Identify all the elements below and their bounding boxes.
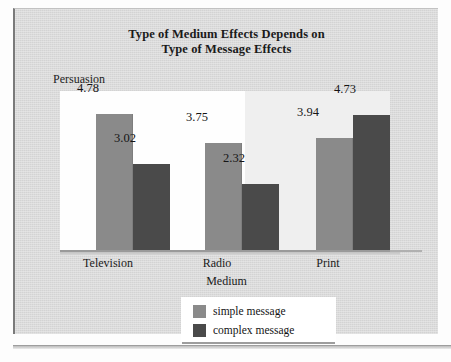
chart-title-line-2: Type of Message Effects	[15, 42, 438, 57]
legend-label-simple-message: simple message	[213, 305, 286, 317]
bar-television-complex	[133, 164, 170, 250]
value-label-television-simple: 4.78	[63, 81, 113, 96]
chart-title-line-1: Type of Medium Effects Depends on	[15, 27, 438, 42]
legend-item-simple-message: simple message	[193, 302, 336, 320]
bar-print-simple	[316, 138, 353, 250]
legend-label-complex-message: complex message	[213, 324, 294, 336]
x-axis-label: Medium	[15, 274, 438, 289]
value-label-print-complex: 4.73	[320, 82, 370, 97]
legend-swatch-complex-message	[193, 324, 206, 337]
value-label-print-simple: 3.94	[283, 105, 333, 120]
legend-item-complex-message: complex message	[193, 321, 336, 339]
category-label-radio: Radio	[172, 256, 262, 271]
value-label-radio-complex: 2.32	[209, 151, 259, 166]
plot-area	[60, 91, 390, 250]
x-axis-baseline	[60, 250, 400, 255]
bar-print-complex	[353, 115, 390, 250]
legend-swatch-simple-message	[193, 305, 206, 318]
bar-radio-complex	[242, 184, 279, 250]
value-label-radio-simple: 3.75	[172, 110, 222, 125]
category-label-print: Print	[283, 256, 373, 271]
chart-title: Type of Medium Effects Depends on Type o…	[15, 27, 438, 56]
figure-panel: Type of Medium Effects Depends on Type o…	[13, 8, 438, 334]
chart-legend: simple message complex message	[181, 297, 336, 342]
value-label-television-complex: 3.02	[100, 131, 150, 146]
page-divider-rule	[13, 345, 451, 349]
category-label-television: Television	[63, 256, 153, 271]
x-axis-baseline-extension	[390, 250, 422, 252]
